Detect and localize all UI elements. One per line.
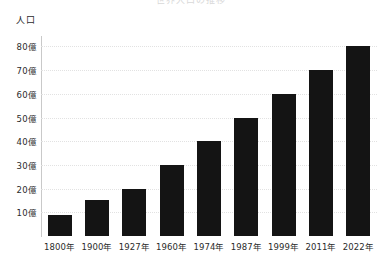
x-axis-tick-label: 1987年: [225, 240, 267, 252]
y-axis-title: 人口: [16, 13, 35, 26]
y-axis-tick-label: 60億: [3, 88, 37, 100]
y-axis-tick-label: 30億: [3, 159, 37, 171]
y-axis-tick-label: 80億: [3, 40, 37, 52]
y-axis-tick-label: 10億: [3, 206, 37, 218]
gridline: [41, 46, 377, 48]
x-axis-tick-label: 1999年: [263, 240, 305, 252]
x-axis-tick-label: 1900年: [76, 240, 118, 252]
x-axis-tick-label: 1800年: [39, 240, 81, 252]
y-axis-tick-label: 40億: [3, 135, 37, 147]
bar: [346, 46, 370, 236]
bar: [160, 165, 184, 236]
bar: [272, 94, 296, 236]
x-axis-tick-label: 2022年: [337, 240, 379, 252]
bar: [234, 118, 258, 236]
chart-title: 世界人口の推移: [0, 0, 381, 5]
x-axis-tick-label: 2011年: [300, 240, 342, 252]
plot-area: [41, 37, 377, 236]
x-axis-tick-label: 1927年: [113, 240, 155, 252]
bar: [197, 141, 221, 236]
y-axis-tick-label: 50億: [3, 112, 37, 124]
bar: [48, 215, 72, 236]
bar: [122, 189, 146, 236]
y-axis-tick-labels: 10億20億30億40億50億60億70億80億: [0, 37, 37, 236]
x-axis-tick-label: 1974年: [188, 240, 230, 252]
y-axis-tick-label: 70億: [3, 64, 37, 76]
x-axis-tick-labels: 1800年1900年1927年1960年1974年1987年1999年2011年…: [41, 240, 377, 256]
y-axis-tick-label: 20億: [3, 183, 37, 195]
bar: [85, 200, 109, 236]
bar: [309, 70, 333, 236]
x-axis-tick-label: 1960年: [151, 240, 193, 252]
